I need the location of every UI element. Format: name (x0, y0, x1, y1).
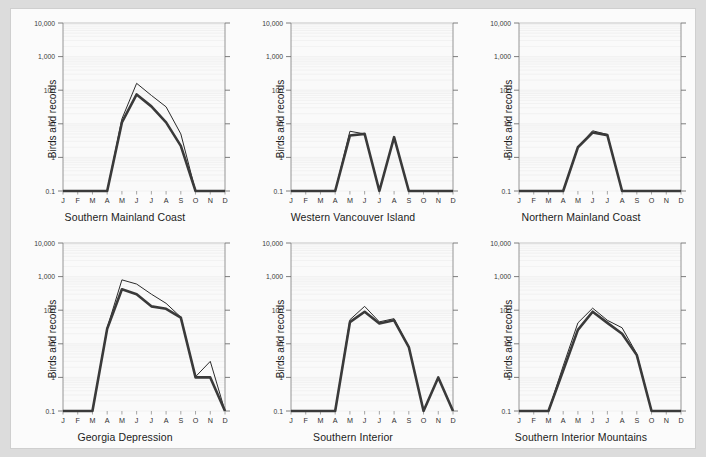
x-tick-label: M (347, 196, 353, 205)
chart-cell-3: 10,0001,0001001010.1JFMAMJJASOND Birds a… (11, 229, 239, 449)
y-tick-label: 1,000 (266, 273, 283, 280)
x-tick-label: A (105, 196, 110, 205)
y-tick-label: 10,000 (262, 240, 283, 247)
y-axis-label: Birds and records (503, 80, 514, 158)
x-tick-label: F (532, 196, 537, 205)
x-tick-label: M (575, 196, 581, 205)
x-tick-label: M (89, 416, 95, 425)
chart-grid: 10,0001,0001001010.1JFMAMJJASOND Birds a… (11, 9, 695, 448)
y-tick-label: 1,000 (38, 273, 55, 280)
x-tick-label: D (450, 196, 455, 205)
x-tick-label: J (135, 196, 139, 205)
x-tick-label: A (392, 416, 397, 425)
x-tick-label: D (450, 416, 455, 425)
x-tick-label: O (421, 416, 427, 425)
x-tick-label: F (304, 416, 309, 425)
chart-cell-0: 10,0001,0001001010.1JFMAMJJASOND Birds a… (11, 9, 239, 229)
y-tick-label: 0.1 (46, 188, 56, 195)
x-tick-label: J (378, 416, 382, 425)
x-tick-label: J (517, 416, 521, 425)
x-tick-label: S (634, 196, 639, 205)
x-tick-label: M (575, 416, 581, 425)
x-tick-label: O (193, 416, 199, 425)
y-axis-label: Birds and records (47, 80, 58, 158)
y-axis-label: Birds and records (275, 300, 286, 378)
x-tick-label: A (333, 416, 338, 425)
figure-page: 10,0001,0001001010.1JFMAMJJASOND Birds a… (0, 0, 706, 457)
x-tick-label: J (150, 416, 154, 425)
x-tick-label: S (178, 416, 183, 425)
x-tick-label: A (164, 196, 169, 205)
x-tick-label: F (532, 416, 537, 425)
x-tick-label: N (208, 416, 213, 425)
x-tick-label: A (620, 196, 625, 205)
x-tick-label: A (561, 196, 566, 205)
chart-plot: 10,0001,0001001010.1JFMAMJJASOND (239, 229, 467, 449)
x-tick-label: J (150, 196, 154, 205)
y-tick-label: 10,000 (34, 240, 55, 247)
chart-title: Northern Mainland Coast (467, 211, 695, 223)
y-tick-label: 1,000 (494, 273, 511, 280)
x-tick-label: N (436, 196, 441, 205)
x-tick-label: M (119, 416, 125, 425)
chart-cell-2: 10,0001,0001001010.1JFMAMJJASOND Birds a… (467, 9, 695, 229)
x-tick-label: J (135, 416, 139, 425)
chart-plot: 10,0001,0001001010.1JFMAMJJASOND (467, 229, 695, 449)
x-tick-label: M (89, 196, 95, 205)
y-tick-label: 0.1 (502, 408, 512, 415)
y-tick-label: 10,000 (262, 20, 283, 27)
x-tick-label: A (333, 196, 338, 205)
x-tick-label: J (289, 416, 293, 425)
y-tick-label: 0.1 (46, 408, 56, 415)
x-tick-label: F (76, 416, 81, 425)
x-tick-label: J (363, 196, 367, 205)
x-tick-label: N (208, 196, 213, 205)
chart-cell-4: 10,0001,0001001010.1JFMAMJJASOND Birds a… (239, 229, 467, 449)
x-tick-label: S (178, 196, 183, 205)
x-tick-label: D (222, 196, 227, 205)
chart-title: Southern Interior (239, 431, 467, 443)
x-tick-label: N (664, 416, 669, 425)
y-axis-label: Birds and records (47, 300, 58, 378)
x-tick-label: A (164, 416, 169, 425)
x-tick-label: S (406, 196, 411, 205)
x-tick-label: J (289, 196, 293, 205)
x-tick-label: J (363, 416, 367, 425)
x-tick-label: D (678, 196, 683, 205)
chart-plot: 10,0001,0001001010.1JFMAMJJASOND (239, 9, 467, 229)
x-tick-label: M (347, 416, 353, 425)
x-tick-label: M (545, 196, 551, 205)
x-tick-label: O (193, 196, 199, 205)
x-tick-label: S (406, 416, 411, 425)
chart-plot: 10,0001,0001001010.1JFMAMJJASOND (467, 9, 695, 229)
x-tick-label: D (222, 416, 227, 425)
figure-panel: 10,0001,0001001010.1JFMAMJJASOND Birds a… (10, 8, 696, 449)
y-axis-label: Birds and records (275, 80, 286, 158)
y-tick-label: 10,000 (490, 20, 511, 27)
x-tick-label: N (664, 196, 669, 205)
x-tick-label: O (649, 196, 655, 205)
chart-title: Western Vancouver Island (239, 211, 467, 223)
x-tick-label: M (317, 416, 323, 425)
x-tick-label: J (591, 196, 595, 205)
chart-cell-5: 10,0001,0001001010.1JFMAMJJASOND Birds a… (467, 229, 695, 449)
y-tick-label: 0.1 (274, 408, 284, 415)
x-tick-label: A (620, 416, 625, 425)
chart-title: Georgia Depression (11, 431, 239, 443)
x-tick-label: M (545, 416, 551, 425)
x-tick-label: M (119, 196, 125, 205)
x-tick-label: J (61, 416, 65, 425)
chart-plot: 10,0001,0001001010.1JFMAMJJASOND (11, 9, 239, 229)
x-tick-label: J (591, 416, 595, 425)
x-tick-label: J (378, 196, 382, 205)
x-tick-label: A (561, 416, 566, 425)
x-tick-label: J (61, 196, 65, 205)
y-axis-label: Birds and records (503, 300, 514, 378)
x-tick-label: O (649, 416, 655, 425)
x-tick-label: O (421, 196, 427, 205)
x-tick-label: A (392, 196, 397, 205)
x-tick-label: F (304, 196, 309, 205)
y-tick-label: 1,000 (266, 53, 283, 60)
x-tick-label: J (606, 416, 610, 425)
x-tick-label: A (105, 416, 110, 425)
